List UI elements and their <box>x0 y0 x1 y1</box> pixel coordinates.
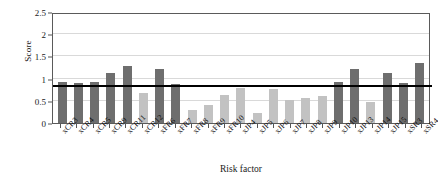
bar <box>123 66 132 123</box>
bar <box>415 63 424 123</box>
x-tick-label: xJP8 <box>302 128 311 162</box>
x-tick-label: xCR3 <box>56 128 65 162</box>
y-tick-label: 1.5 <box>35 52 46 62</box>
x-tick-label: xSR3 <box>401 128 410 162</box>
x-tick-label: xCR9 <box>105 128 114 162</box>
y-tick-label: 0.5 <box>35 97 46 107</box>
x-tick-label: xFR10 <box>220 128 229 162</box>
y-tick-label: 0 <box>42 119 47 129</box>
x-axis-tick-labels: xCR3xCR4xCR5xCR9xCR11xCR12xFR6xFR7xFR8xF… <box>52 128 430 162</box>
x-tick-label: xJP4 <box>236 128 245 162</box>
bar <box>106 73 115 123</box>
x-tick-label: xJP13 <box>351 128 360 162</box>
y-tick-label: 2 <box>42 30 47 40</box>
x-tick-label: xFR8 <box>187 128 196 162</box>
y-axis-tick-labels: 00.511.522.5 <box>20 0 46 185</box>
y-tick-label: 1 <box>42 75 47 85</box>
x-tick-label: xJP7 <box>286 128 295 162</box>
x-tick-label: xFR7 <box>171 128 180 162</box>
x-tick-label: xCR5 <box>89 128 98 162</box>
x-tick-label: xCR12 <box>138 128 147 162</box>
bar <box>334 82 343 123</box>
x-tick-label: xCR4 <box>72 128 81 162</box>
x-tick-label: xJP9 <box>318 128 327 162</box>
x-tick-label: xFR6 <box>154 128 163 162</box>
x-axis-title: Risk factor <box>52 164 430 174</box>
bar <box>58 82 67 123</box>
y-tick-label: 2.5 <box>35 8 46 18</box>
x-tick-label: xJP15 <box>384 128 393 162</box>
x-tick-label: xSR4 <box>417 128 426 162</box>
bar-series <box>53 14 429 123</box>
threshold-line <box>53 85 432 87</box>
bar <box>269 89 278 123</box>
x-tick-label: xJP6 <box>269 128 278 162</box>
x-tick-label: xFR9 <box>204 128 213 162</box>
bar-chart: Score 00.511.522.5 xCR3xCR4xCR5xCR9xCR11… <box>0 0 438 185</box>
x-tick-label: xJP5 <box>253 128 262 162</box>
x-tick-label: xCR11 <box>121 128 130 162</box>
x-tick-label: xJP14 <box>368 128 377 162</box>
x-tick-label: xJP10 <box>335 128 344 162</box>
plot-area <box>52 13 430 124</box>
